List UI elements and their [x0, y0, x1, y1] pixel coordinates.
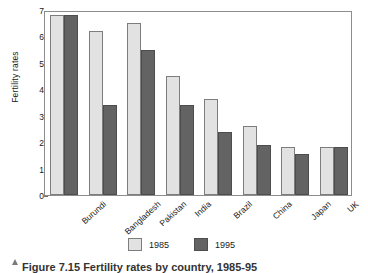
legend-label-1995: 1995	[215, 240, 235, 250]
bar-burundi-1985	[50, 15, 64, 195]
figure-caption: Figure 7.15 Fertility rates by country, …	[22, 261, 362, 273]
bar-group	[161, 10, 200, 195]
bar-group	[315, 10, 354, 195]
bar-pakistan-1995	[141, 50, 155, 195]
y-tick-label-0: 0	[32, 191, 44, 201]
legend-entry-1985: 1985	[128, 238, 169, 251]
bar-japan-1995	[295, 154, 309, 195]
x-label-burundi: Burundi	[80, 199, 108, 226]
legend-entry-1995: 1995	[194, 238, 235, 251]
bar-group	[276, 10, 315, 195]
plot-area	[44, 11, 352, 196]
x-label-uk: UK	[345, 199, 360, 214]
bar-group	[84, 10, 123, 195]
bar-pakistan-1985	[127, 23, 141, 195]
bar-group	[238, 10, 277, 195]
y-tick-label-3: 3	[32, 112, 44, 122]
x-label-brazil: Brazil	[232, 199, 254, 221]
x-label-india: India	[192, 199, 212, 219]
bar-uk-1995	[334, 147, 348, 195]
bar-burundi-1995	[64, 15, 78, 195]
bar-brazil-1985	[204, 99, 218, 195]
x-label-pakistan: Pakistan	[158, 199, 189, 228]
bar-uk-1985	[320, 147, 334, 195]
bar-china-1985	[243, 126, 257, 195]
y-axis-title: Fertility rates	[10, 31, 20, 123]
bar-bangladesh-1985	[89, 31, 103, 195]
x-label-japan: Japan	[309, 199, 333, 222]
bar-group	[122, 10, 161, 195]
x-label-bangladesh: Bangladesh	[122, 199, 162, 236]
y-tick-label-7: 7	[32, 6, 44, 16]
legend-label-1985: 1985	[149, 240, 169, 250]
bar-group	[45, 10, 84, 195]
bar-japan-1985	[281, 147, 295, 195]
bar-india-1985	[166, 76, 180, 195]
bar-brazil-1995	[218, 132, 232, 195]
y-tick-label-5: 5	[32, 59, 44, 69]
caption-marker-icon	[12, 259, 18, 265]
bar-india-1995	[180, 105, 194, 195]
bar-group	[199, 10, 238, 195]
y-tick-mark-0	[44, 196, 48, 197]
bar-bangladesh-1995	[103, 105, 117, 195]
bar-china-1995	[257, 145, 271, 195]
legend-swatch-1985	[128, 238, 142, 251]
y-tick-label-4: 4	[32, 85, 44, 95]
legend-swatch-1995	[194, 238, 208, 251]
y-tick-label-6: 6	[32, 32, 44, 42]
y-tick-label-2: 2	[32, 138, 44, 148]
chart-legend: 1985 1995	[128, 238, 235, 251]
y-tick-label-1: 1	[32, 165, 44, 175]
x-label-china: China	[270, 199, 293, 221]
